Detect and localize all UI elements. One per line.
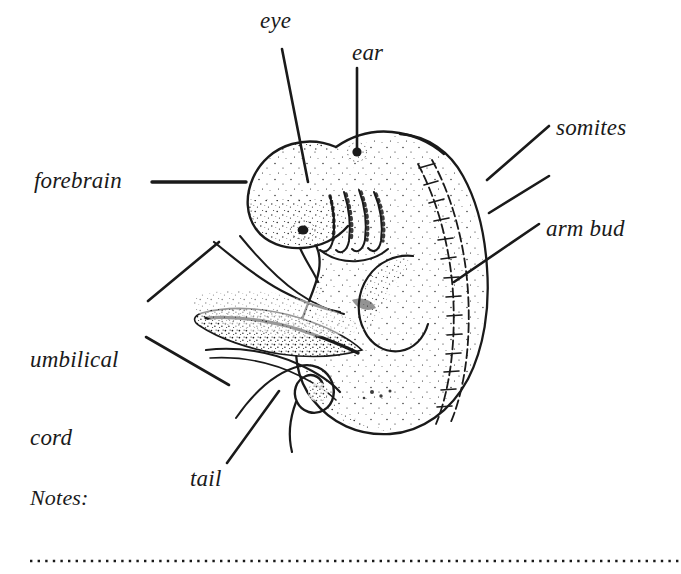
embryo-diagram <box>0 0 681 574</box>
label-umbilical-cord: umbilical cord <box>30 295 119 477</box>
label-forebrain: forebrain <box>34 168 122 194</box>
label-tail: tail <box>190 466 221 492</box>
label-somites: somites <box>556 115 626 141</box>
eye-marker <box>298 225 309 234</box>
notes-heading: Notes: <box>30 485 89 511</box>
label-ear: ear <box>352 40 383 66</box>
label-eye: eye <box>260 8 291 34</box>
label-arm-bud: arm bud <box>546 216 625 242</box>
label-umbilical-cord-line1: umbilical <box>30 347 119 373</box>
label-umbilical-cord-line2: cord <box>30 425 119 451</box>
